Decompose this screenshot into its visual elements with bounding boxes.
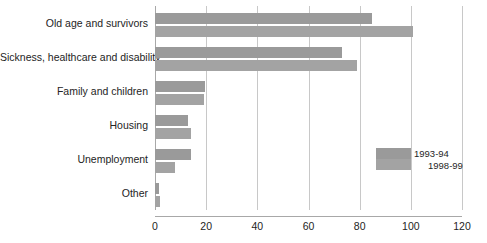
plot-area: 020406080100120 (155, 6, 462, 210)
y-axis-label-3: Housing (0, 119, 148, 131)
bar (155, 60, 357, 71)
bar (155, 149, 191, 160)
bar-group (155, 113, 462, 147)
legend-label-1998-99: 1998-99 (428, 160, 463, 171)
bar (155, 47, 342, 58)
bar (155, 26, 413, 37)
y-axis-label-2: Family and children (0, 85, 148, 97)
y-axis-label-5: Other (0, 187, 148, 199)
bar-group (155, 45, 462, 79)
legend-swatch-1998-99 (376, 159, 411, 170)
x-tick-100: 100 (402, 220, 420, 232)
x-tick-120: 120 (453, 220, 471, 232)
x-tick-0: 0 (152, 220, 158, 232)
x-axis-line (155, 216, 462, 217)
y-axis-label-1: Sickness, healthcare and disability (0, 51, 148, 63)
bar (155, 196, 160, 207)
bar (155, 115, 188, 126)
gridline-120 (462, 6, 463, 210)
legend-swatch-1993-94 (376, 148, 411, 159)
bar-chart: Old age and survivors Sickness, healthca… (0, 0, 487, 243)
bar-group (155, 79, 462, 113)
x-tick-20: 20 (200, 220, 212, 232)
bar (155, 94, 204, 105)
bar (155, 162, 175, 173)
x-tick-60: 60 (303, 220, 315, 232)
legend-label-1993-94: 1993-94 (414, 148, 449, 159)
bar (155, 81, 205, 92)
bar (155, 128, 191, 139)
x-tick-80: 80 (354, 220, 366, 232)
y-axis-label-0: Old age and survivors (0, 17, 148, 29)
y-axis-label-4: Unemployment (0, 153, 148, 165)
bar-group (155, 181, 462, 215)
bar-group (155, 11, 462, 45)
x-tick-40: 40 (251, 220, 263, 232)
bar (155, 13, 372, 24)
bar (155, 183, 159, 194)
